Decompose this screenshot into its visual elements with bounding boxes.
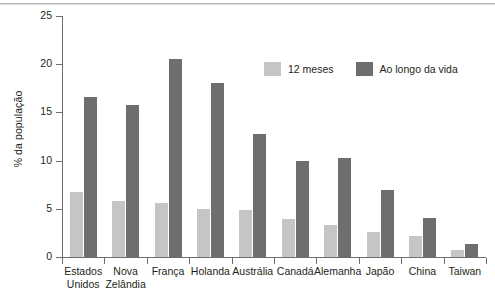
plot-area: [0, 0, 495, 297]
x-tick-7: [359, 258, 360, 264]
x-label-taiwan: Taiwan: [431, 265, 495, 278]
x-tick-4: [232, 258, 233, 264]
bar-chart-figure: % da população 0510152025 EstadosUnidosN…: [0, 0, 495, 297]
bar-12-meses-8: [409, 236, 422, 257]
bar-12-meses-6: [324, 225, 337, 257]
bar-ao-longo-da-vida-8: [423, 218, 436, 257]
bar-ao-longo-da-vida-2: [169, 59, 182, 257]
bar-12-meses-3: [197, 209, 210, 257]
x-label-line: Taiwan: [431, 265, 495, 278]
bar-12-meses-7: [367, 232, 380, 257]
bar-12-meses-1: [112, 201, 125, 257]
bar-12-meses-9: [451, 250, 464, 257]
bar-ao-longo-da-vida-6: [338, 158, 351, 257]
x-tick-10: [486, 258, 487, 264]
x-tick-9: [444, 258, 445, 264]
x-tick-6: [316, 258, 317, 264]
bar-ao-longo-da-vida-3: [211, 83, 224, 257]
chart-legend: 12 meses Ao longo da vida: [264, 62, 458, 76]
legend-item-12-meses: 12 meses: [264, 62, 334, 76]
legend-label-12-meses: 12 meses: [288, 63, 334, 75]
bar-ao-longo-da-vida-0: [84, 97, 97, 257]
legend-item-ao-longo-da-vida: Ao longo da vida: [356, 62, 458, 76]
x-tick-2: [147, 258, 148, 264]
x-tick-1: [104, 258, 105, 264]
x-tick-3: [189, 258, 190, 264]
legend-label-ao-longo-da-vida: Ao longo da vida: [380, 63, 458, 75]
bar-ao-longo-da-vida-1: [126, 105, 139, 257]
bar-12-meses-4: [239, 210, 252, 257]
legend-swatch-icon-12-meses: [264, 62, 281, 76]
bar-12-meses-2: [155, 203, 168, 257]
bar-12-meses-5: [282, 219, 295, 257]
x-tick-0: [62, 258, 63, 264]
x-label-line: Zelândia: [92, 278, 160, 291]
x-tick-5: [274, 258, 275, 264]
legend-swatch-icon-ao-longo-da-vida: [356, 62, 373, 76]
bar-12-meses-0: [70, 192, 83, 257]
bar-ao-longo-da-vida-5: [296, 161, 309, 257]
bar-ao-longo-da-vida-7: [381, 190, 394, 257]
bar-ao-longo-da-vida-9: [465, 244, 478, 257]
bar-ao-longo-da-vida-4: [253, 134, 266, 257]
x-tick-8: [401, 258, 402, 264]
